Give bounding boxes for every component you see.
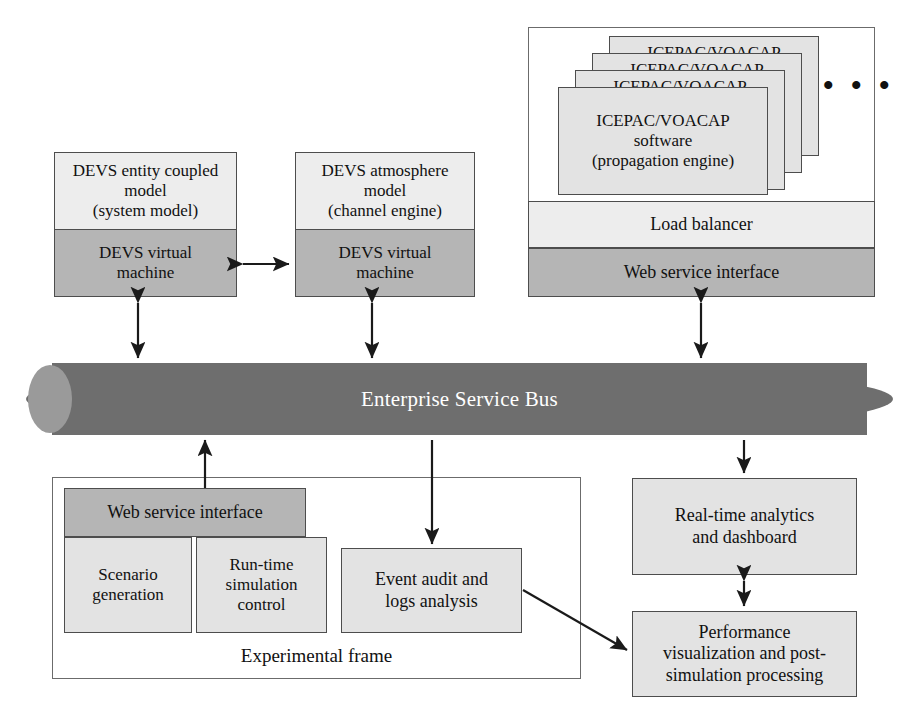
devs-entity-coupled-model-box[interactable]: DEVS entity coupled model (system model)… — [54, 152, 237, 297]
realtime-analytics-dashboard-label: Real-time analytics and dashboard — [675, 505, 814, 547]
realtime-analytics-dashboard-box[interactable]: Real-time analytics and dashboard — [632, 478, 857, 575]
load-balancer-label: Load balancer — [650, 214, 752, 235]
esb-label: Enterprise Service Bus — [26, 363, 893, 435]
devs-atmosphere-model-box[interactable]: DEVS atmosphere model (channel engine) D… — [295, 152, 475, 297]
runtime-simulation-control-box[interactable]: Run-time simulation control — [196, 537, 327, 633]
experimental-frame-web-service-interface-box[interactable]: Web service interface — [64, 488, 306, 537]
performance-visualization-label: Performance visualization and post- simu… — [663, 622, 826, 686]
icepac-voacap-card-front[interactable]: ICEPAC/VOACAP software (propagation engi… — [558, 87, 768, 195]
propagation-web-service-interface-box[interactable]: Web service interface — [528, 248, 875, 297]
devs-atmosphere-model-label: DEVS atmosphere model (channel engine) — [296, 153, 474, 229]
devs-entity-virtual-machine-label: DEVS virtual machine — [55, 229, 236, 296]
propagation-web-service-interface-label: Web service interface — [624, 262, 779, 283]
scenario-generation-label: Scenario generation — [92, 565, 164, 605]
scenario-generation-box[interactable]: Scenario generation — [64, 537, 192, 633]
performance-visualization-box[interactable]: Performance visualization and post- simu… — [632, 611, 857, 697]
experimental-frame-web-service-interface-label: Web service interface — [107, 502, 262, 523]
enterprise-service-bus[interactable]: Enterprise Service Bus — [26, 363, 893, 435]
event-audit-logs-analysis-box[interactable]: Event audit and logs analysis — [341, 548, 522, 633]
event-audit-logs-analysis-label: Event audit and logs analysis — [375, 569, 488, 611]
devs-atmosphere-virtual-machine-label: DEVS virtual machine — [296, 229, 474, 296]
devs-entity-coupled-model-label: DEVS entity coupled model (system model) — [55, 153, 236, 229]
load-balancer-box[interactable]: Load balancer — [528, 201, 875, 248]
runtime-simulation-control-label: Run-time simulation control — [226, 555, 298, 615]
more-instances-ellipsis: • • • — [823, 70, 895, 100]
architecture-diagram: DEVS entity coupled model (system model)… — [0, 0, 915, 725]
icepac-voacap-card-front-label: ICEPAC/VOACAP software (propagation engi… — [592, 111, 734, 171]
experimental-frame-label: Experimental frame — [52, 645, 581, 667]
